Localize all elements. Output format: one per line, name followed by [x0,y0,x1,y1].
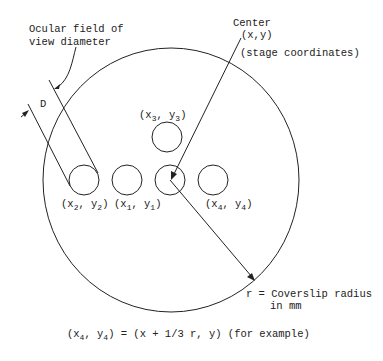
center-arrow-icon [171,171,177,180]
stage-coordinates-label: (stage coordinates) [240,47,360,59]
radius-arrow-icon [247,273,255,281]
field-label-1: (x1, y1) [114,198,161,212]
ocular-leader-line [58,47,76,87]
field-circle-1 [112,165,142,195]
field-circle-3 [152,122,182,152]
center-leader-line [173,38,241,176]
field-label-3: (x3, y3) [139,109,186,123]
coverslip-field-diagram: Ocular field of view diameter D Center (… [0,0,383,361]
diameter-line-left [28,104,70,186]
field-circle-4 [198,165,228,195]
center-label-line1: Center [233,17,271,29]
radius-label-line2: in mm [270,300,302,312]
formula-text: (x4, y4) = (x + 1/3 r, y) (for example) [67,328,310,342]
d-arrow-icon [22,110,29,117]
field-label-2: (x2, y2) [61,198,108,212]
radius-label-line1: r = Coverslip radius [246,288,372,300]
ocular-arrow-icon [54,84,60,89]
center-label-line2: (x,y) [241,29,273,41]
ocular-label-line2: view diameter [29,36,111,48]
d-label: D [40,98,46,110]
field-circle-2 [69,165,99,195]
ocular-label-line1: Ocular field of [29,23,124,35]
field-label-4: (x4, y4) [205,198,252,212]
